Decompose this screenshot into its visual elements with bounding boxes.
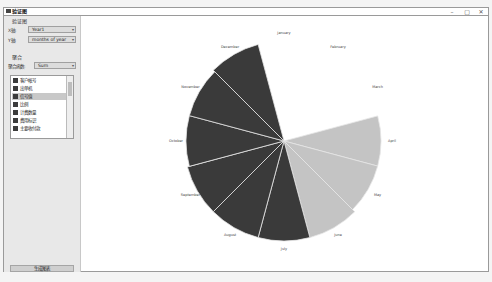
list-item[interactable]: 客户帐号 [12,77,68,84]
x-axis-value: Year1 [32,27,44,32]
field-icon [13,78,18,83]
aggregate-func-value: Sum [38,63,48,68]
polar-area-chart: JanuaryFebruaryMarchAprilMayJuneJulyAugu… [81,16,489,272]
aggregate-func-select[interactable]: Sum ▾ [34,62,76,69]
field-list[interactable]: 客户帐号 出单机 信号值 比例 计费数量 费用标识 主要收付款 [10,75,74,139]
chart-label-november: November [181,85,200,89]
title-bar: 验证图 – ▢ ✕ [4,8,488,16]
list-item[interactable]: 比例 [12,101,68,108]
field-icon [13,126,18,131]
aggregate-func-label: 聚合函数: [8,63,26,69]
axes-group-label: 验证图 [12,17,27,24]
app-icon [6,9,11,13]
scroll-thumb[interactable] [68,82,72,96]
y-axis-value: months of year [32,37,66,42]
list-item-label: 费用标识 [20,118,36,123]
chart-label-june: June [333,233,342,237]
chart-label-april: April [388,139,396,143]
chart-label-july: July [280,247,287,251]
field-icon [13,94,18,99]
chart-label-december: December [221,45,240,49]
x-axis-label: X轴: [8,27,17,33]
y-axis-select[interactable]: months of year ▾ [28,36,76,43]
chart-label-march: March [372,85,383,89]
chart-label-september: September [181,193,201,197]
field-icon [13,86,18,91]
list-item-label: 客户帐号 [20,78,36,83]
chevron-down-icon: ▾ [72,27,74,32]
field-icon [13,110,18,115]
window-title: 验证图 [12,8,27,15]
list-item-label: 计费数量 [20,110,36,115]
list-item[interactable]: 主要收付款 [12,125,68,132]
list-item[interactable]: 费用标识 [12,117,68,124]
generate-chart-button[interactable]: 生成图表 [10,265,74,272]
field-icon [13,102,18,107]
maximize-button[interactable]: ▢ [461,8,473,15]
chevron-down-icon: ▾ [72,37,74,42]
chart-label-august: August [224,233,237,237]
list-scrollbar[interactable] [66,76,73,138]
chart-label-february: February [330,45,346,49]
settings-panel: 验证图 X轴: Year1 ▾ Y轴: months of year ▾ 聚合 … [4,16,81,272]
close-button[interactable]: ✕ [475,8,487,15]
chart-label-october: October [169,139,184,143]
list-item[interactable]: 出单机 [12,85,68,92]
list-item-label: 信号值 [20,94,32,99]
x-axis-select[interactable]: Year1 ▾ [28,26,76,33]
chevron-down-icon: ▾ [72,63,74,68]
list-item[interactable]: 计费数量 [12,109,68,116]
list-item-label: 比例 [20,102,28,107]
list-item-label: 主要收付款 [20,126,40,131]
chart-label-january: January [276,31,290,35]
aggregate-group-label: 聚合 [12,53,22,60]
minimize-button[interactable]: – [446,8,458,15]
chart-label-may: May [374,193,381,197]
y-axis-label: Y轴: [8,37,16,43]
app-window: 验证图 – ▢ ✕ 验证图 X轴: Year1 ▾ Y轴: months of … [3,7,489,272]
list-item[interactable]: 信号值 [12,93,68,100]
field-icon [13,118,18,123]
list-item-label: 出单机 [20,86,32,91]
